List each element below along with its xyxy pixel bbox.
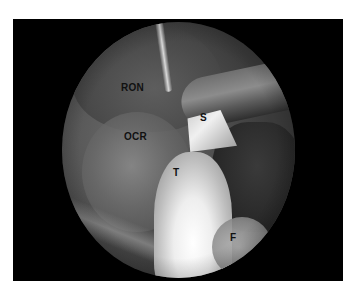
label-f: F <box>230 233 236 243</box>
label-ocr: OCR <box>124 132 147 142</box>
label-s: S <box>200 113 207 123</box>
vignette <box>62 22 295 278</box>
endoscope-field <box>62 22 295 278</box>
image-frame <box>13 19 343 281</box>
label-t: T <box>173 168 179 178</box>
label-ron: RON <box>121 83 144 93</box>
